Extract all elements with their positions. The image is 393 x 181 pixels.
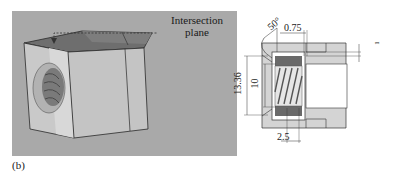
cross-section-drawing: 50° 0.75 13.36 10 2.5 1 <box>236 0 393 181</box>
outer-height-dimension: 13.36 <box>232 72 243 95</box>
cross-section-graphic <box>236 0 393 181</box>
inner-height-dimension: 10 <box>249 79 260 89</box>
bottom-width-dimension: 2.5 <box>277 131 290 142</box>
callout-line-1: Intersection <box>167 14 227 26</box>
figure-label: (b) <box>12 159 25 171</box>
top-offset-dimension: 0.75 <box>284 22 302 33</box>
intersection-plane-callout: Intersection plane <box>167 14 227 38</box>
callout-line-2: plane <box>167 26 227 38</box>
right-small-dimension: 1 <box>373 41 381 45</box>
